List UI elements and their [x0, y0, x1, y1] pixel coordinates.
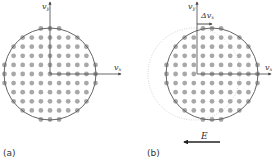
velocity-state-dot — [29, 44, 34, 49]
velocity-state-dot — [164, 72, 169, 77]
velocity-state-dot — [191, 53, 196, 58]
velocity-state-dot — [11, 72, 16, 77]
velocity-state-dot — [228, 53, 233, 58]
velocity-state-dot — [39, 63, 44, 68]
velocity-state-dot — [191, 99, 196, 104]
velocity-state-dot — [201, 108, 206, 113]
velocity-state-dot — [182, 81, 187, 86]
velocity-state-dot — [191, 63, 196, 68]
velocity-state-dot — [237, 44, 242, 49]
velocity-state-dot — [210, 63, 215, 68]
velocity-state-dot — [11, 90, 16, 95]
velocity-state-dot — [57, 108, 62, 113]
velocity-state-dot — [228, 35, 233, 40]
velocity-state-dot — [39, 53, 44, 58]
velocity-state-dot — [39, 90, 44, 95]
velocity-state-dot — [75, 53, 80, 58]
velocity-state-dot — [228, 81, 233, 86]
velocity-state-dot — [29, 63, 34, 68]
velocity-state-dot — [182, 90, 187, 95]
panel-a-vx-label: vx — [114, 64, 121, 72]
velocity-state-dot — [20, 53, 25, 58]
velocity-state-dot — [48, 90, 53, 95]
velocity-state-dot — [210, 90, 215, 95]
velocity-state-dot — [75, 63, 80, 68]
velocity-state-dot — [66, 90, 71, 95]
velocity-state-dot — [246, 53, 251, 58]
velocity-state-dot — [201, 53, 206, 58]
velocity-state-dot — [20, 99, 25, 104]
velocity-state-dot — [237, 99, 242, 104]
velocity-state-dot — [210, 117, 215, 122]
velocity-state-dot — [20, 90, 25, 95]
velocity-state-dot — [237, 81, 242, 86]
velocity-state-dot — [191, 81, 196, 86]
velocity-state-dot — [219, 53, 224, 58]
velocity-state-dot — [210, 35, 215, 40]
velocity-state-dot — [75, 90, 80, 95]
diagram-canvas — [0, 0, 272, 165]
velocity-state-dot — [57, 53, 62, 58]
velocity-state-dot — [84, 90, 89, 95]
velocity-state-dot — [39, 44, 44, 49]
velocity-state-dot — [219, 108, 224, 113]
velocity-state-dot — [191, 90, 196, 95]
velocity-state-dot — [20, 81, 25, 86]
velocity-state-dot — [75, 99, 80, 104]
velocity-state-dot — [29, 35, 34, 40]
velocity-state-dot — [210, 99, 215, 104]
velocity-state-dot — [173, 90, 178, 95]
velocity-state-dot — [48, 81, 53, 86]
velocity-state-dot — [246, 90, 251, 95]
velocity-state-dot — [57, 63, 62, 68]
velocity-state-dot — [210, 81, 215, 86]
velocity-state-dot — [219, 63, 224, 68]
velocity-state-dot — [246, 81, 251, 86]
velocity-state-dot — [29, 108, 34, 113]
velocity-state-dot — [173, 53, 178, 58]
velocity-state-dot — [48, 108, 53, 113]
velocity-state-dot — [201, 35, 206, 40]
velocity-state-dot — [29, 99, 34, 104]
velocity-state-dot — [182, 72, 187, 77]
velocity-state-dot — [75, 44, 80, 49]
velocity-state-dot — [29, 72, 34, 77]
velocity-state-dot — [246, 63, 251, 68]
velocity-state-dot — [182, 99, 187, 104]
velocity-state-dot — [210, 44, 215, 49]
velocity-state-dot — [57, 44, 62, 49]
velocity-state-dot — [84, 81, 89, 86]
velocity-state-dot — [2, 72, 7, 77]
velocity-state-dot — [191, 72, 196, 77]
velocity-state-dot — [182, 44, 187, 49]
velocity-state-dot — [57, 81, 62, 86]
velocity-state-dot — [66, 108, 71, 113]
velocity-state-dot — [228, 90, 233, 95]
velocity-state-dot — [173, 72, 178, 77]
velocity-state-dot — [20, 72, 25, 77]
velocity-state-dot — [11, 53, 16, 58]
velocity-state-dot — [39, 108, 44, 113]
velocity-state-dot — [173, 63, 178, 68]
velocity-state-dot — [219, 81, 224, 86]
velocity-state-dot — [237, 53, 242, 58]
velocity-state-dot — [201, 90, 206, 95]
velocity-state-dot — [84, 63, 89, 68]
panel-b-vx-label: vx — [265, 64, 272, 72]
velocity-state-dot — [20, 44, 25, 49]
velocity-state-dot — [57, 99, 62, 104]
velocity-state-dot — [29, 90, 34, 95]
velocity-state-dot — [201, 81, 206, 86]
velocity-state-dot — [237, 63, 242, 68]
velocity-state-dot — [228, 44, 233, 49]
velocity-state-dot — [48, 117, 53, 122]
velocity-state-dot — [228, 63, 233, 68]
velocity-state-dot — [201, 44, 206, 49]
velocity-state-dot — [173, 81, 178, 86]
velocity-state-dot — [191, 35, 196, 40]
panel-b-shifted-fermi-circle — [148, 2, 271, 142]
velocity-state-dot — [11, 81, 16, 86]
velocity-state-dot — [57, 35, 62, 40]
panel-a-vy-label: vy — [42, 3, 49, 11]
velocity-state-dot — [210, 26, 215, 31]
